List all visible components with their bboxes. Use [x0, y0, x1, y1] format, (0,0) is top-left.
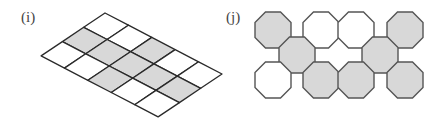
octagon-shaded: [338, 62, 374, 98]
parallelogram-grid: [41, 13, 222, 117]
octagon-shaded: [387, 62, 423, 98]
octagon-arrangement: [255, 12, 423, 98]
octagon-white: [255, 62, 291, 98]
octagon-shaded: [303, 62, 339, 98]
diagram-canvas: [0, 0, 442, 126]
